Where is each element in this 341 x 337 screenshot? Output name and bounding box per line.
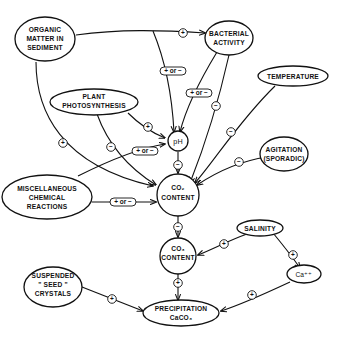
sign-minus-temperature-co2: − [227,128,236,137]
node-plant-photosynthesis: PLANT PHOTOSYNTHESIS [50,89,138,115]
sign-plus-organic-bacterial: + [179,29,188,38]
svg-text:CRYSTALS: CRYSTALS [35,290,72,297]
svg-text:Ca⁺⁺: Ca⁺⁺ [295,271,312,278]
node-precipitation-caco3: PRECIPITATION CaCO₃ [143,300,219,326]
svg-text:TEMPERATURE: TEMPERATURE [267,73,319,80]
sign-minus-co2-co3: − [174,223,183,232]
svg-text:+ or −: + or − [190,89,208,96]
svg-text:+ or −: + or − [164,67,182,74]
svg-text:MATTER IN: MATTER IN [26,35,63,42]
svg-text:−: − [176,161,180,168]
sign-plus-salinity-ca: + [289,251,298,260]
sign-plus-salinity-co3: + [220,240,229,249]
node-agitation: AGITATION (SPORADIC) [260,137,308,171]
svg-text:BACTERIAL: BACTERIAL [209,30,249,37]
node-calcium-ion: Ca⁺⁺ [287,265,321,283]
svg-text:SEDIMENT: SEDIMENT [27,44,63,51]
node-co3-content: CO₃ CONTENT [160,238,196,274]
edge-organic-to-ph [153,31,174,132]
svg-text:CONTENT: CONTENT [161,254,194,261]
svg-text:+: + [291,251,295,258]
sign-plus-seed-precipitation: + [108,295,117,304]
sign-pm-organic-ph: + or − [160,67,186,75]
svg-text:pH: pH [173,137,183,146]
sign-minus-bacterial-co2: − [212,102,221,111]
node-salinity: SALINITY [237,220,283,236]
svg-text:−: − [214,102,218,109]
sign-minus-photosynthesis-co2: − [107,143,116,152]
sign-pm-bacterial-ph: + or − [186,89,212,97]
svg-text:ACTIVITY: ACTIVITY [213,39,245,46]
svg-text:(SPORADIC): (SPORADIC) [263,155,304,163]
edge-agitation-to-co2 [197,157,267,185]
svg-text:+ or −: + or − [114,198,132,205]
sign-pm-misc-co2: + or − [110,198,136,206]
node-bacterial-activity: BACTERIAL ACTIVITY [205,21,253,55]
svg-text:CaCO₃: CaCO₃ [170,314,192,321]
svg-text:−: − [237,158,241,165]
svg-text:−: − [229,128,233,135]
sign-minus-agitation-co2: − [235,158,244,167]
svg-text:CHEMICAL: CHEMICAL [29,194,65,201]
edge-salinity-to-ca [273,233,300,268]
edge-organic-to-co2 [36,62,153,186]
svg-text:+: + [110,295,114,302]
svg-text:MISCELLANEOUS: MISCELLANEOUS [17,185,77,192]
sign-plus-ca-precipitation: + [248,291,257,300]
svg-text:CO₃: CO₃ [171,245,185,252]
sign-plus-co3-precipitation: + [174,279,183,288]
svg-text:ORGANIC: ORGANIC [29,26,62,33]
svg-text:+: + [176,279,180,286]
svg-text:CONTENT: CONTENT [161,194,194,201]
node-ph: pH [168,131,188,151]
svg-text:REACTIONS: REACTIONS [27,203,68,210]
svg-text:CO₂: CO₂ [171,184,184,191]
svg-text:+: + [61,139,65,146]
causal-diagram: + + or − + + or − − + − − − − + or − + o… [0,0,341,337]
svg-text:SALINITY: SALINITY [244,225,276,232]
sign-plus-photosynthesis-ph: + [144,123,153,132]
svg-text:−: − [109,143,113,150]
svg-text:+: + [250,291,254,298]
node-misc-chemical-reactions: MISCELLANEOUS CHEMICAL REACTIONS [2,175,92,219]
svg-text:+: + [146,123,150,130]
sign-plus-organic-co2: + [59,139,68,148]
edge-bacterial-to-co2 [190,55,229,183]
svg-text:PHOTOSYNTHESIS: PHOTOSYNTHESIS [62,102,126,109]
svg-text:AGITATION: AGITATION [265,146,302,153]
svg-text:PRECIPITATION: PRECIPITATION [155,305,208,312]
node-suspended-seed-crystals: SUSPENDED " SEED " CRYSTALS [24,267,82,307]
svg-text:PLANT: PLANT [83,93,106,100]
svg-text:" SEED ": " SEED " [38,281,67,288]
svg-text:+: + [181,29,185,36]
svg-text:+: + [222,240,226,247]
sign-pm-misc-ph: + or − [132,147,158,155]
node-co2-content: CO₂ CONTENT [157,174,199,216]
svg-text:SUSPENDED: SUSPENDED [32,272,75,279]
sign-minus-ph-co2: − [174,161,183,170]
node-temperature: TEMPERATURE [258,66,328,86]
node-organic-matter: ORGANIC MATTER IN SEDIMENT [15,17,75,61]
svg-text:−: − [176,223,180,230]
svg-text:+ or −: + or − [136,147,154,154]
